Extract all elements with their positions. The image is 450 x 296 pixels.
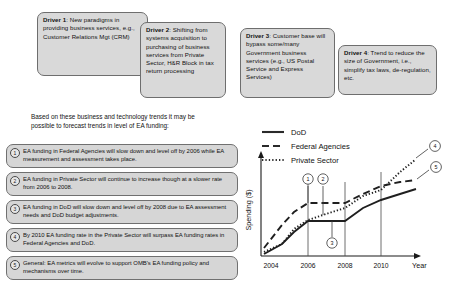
legend-label-private-sector: Private Sector — [291, 156, 339, 165]
finding-text-1: EA funding in Federal Agencies will slow… — [23, 147, 233, 163]
y-axis-title: Spending ($) — [244, 189, 253, 230]
chart-callout-4: 4 — [416, 141, 440, 158]
finding-text-3: EA funding in DoD will slow down and lev… — [23, 203, 233, 219]
chart-callout-3: 3 — [327, 221, 337, 248]
driver-box-4: Driver 4: Trend to reduce the size of Go… — [338, 45, 437, 95]
x-tick-2010: 2010 — [373, 262, 388, 269]
finding-row-1: 1 EA funding in Federal Agencies will sl… — [6, 144, 238, 168]
driver-3-text: : Customer base will bypass some/many Go… — [246, 32, 325, 80]
diagram-canvas: Driver 1: New paradigms in providing bus… — [0, 0, 450, 296]
finding-text-2: EA funding in Private Sector will contin… — [23, 175, 233, 191]
driver-box-3: Driver 3: Customer base will bypass some… — [240, 28, 335, 98]
driver-2-text: : Shifting from systems acquisition to p… — [146, 26, 214, 74]
series-line-dod — [264, 189, 416, 254]
chart-callout-1: 1 — [303, 174, 313, 203]
x-axis-title: Year — [412, 261, 427, 270]
finding-row-4: 4 By 2010 EA funding rate in the Private… — [6, 228, 238, 252]
finding-row-5: 5 General: EA metrics will evolve to sup… — [6, 256, 238, 280]
driver-box-2: Driver 2: Shifting from systems acquisit… — [140, 22, 226, 98]
chart-callout-label-1: 1 — [307, 176, 310, 182]
chart-callout-5: 5 — [417, 162, 441, 179]
legend-label-federal-agencies: Federal Agencies — [291, 142, 350, 151]
chart-legend: DoD Federal Agencies Private Sector — [262, 128, 350, 165]
finding-number-5: 5 — [10, 260, 20, 270]
x-axis-arrow — [414, 253, 421, 259]
x-axis-ticks: 2004 2006 2008 2010 — [263, 262, 388, 269]
chart-callout-label-5: 5 — [435, 164, 438, 170]
x-tick-2008: 2008 — [337, 262, 352, 269]
chart-guidelines — [308, 172, 381, 256]
driver-3-label: Driver 3 — [246, 32, 269, 39]
finding-text-4: By 2010 EA funding rate in the Private S… — [23, 231, 233, 247]
driver-1-label: Driver 1 — [43, 16, 66, 23]
finding-text-5: General: EA metrics will evolve to suppo… — [23, 259, 233, 275]
finding-number-3: 3 — [10, 204, 20, 214]
chart-svg: DoD Federal Agencies Private Sector — [240, 124, 450, 296]
finding-number-2: 2 — [10, 176, 20, 186]
chart-callout-label-4: 4 — [434, 143, 437, 149]
intro-paragraph: Based on these business and technology t… — [31, 112, 216, 130]
driver-2-label: Driver 2 — [146, 26, 169, 33]
spending-trend-chart: DoD Federal Agencies Private Sector — [240, 124, 450, 296]
driver-box-1: Driver 1: New paradigms in providing bus… — [37, 12, 148, 76]
legend-label-dod: DoD — [291, 128, 307, 137]
finding-number-1: 1 — [10, 148, 20, 158]
driver-4-label: Driver 4 — [344, 49, 367, 56]
finding-row-2: 2 EA funding in Private Sector will cont… — [6, 172, 238, 196]
chart-callout-label-3: 3 — [331, 240, 334, 246]
chart-callout-2: 2 — [318, 174, 328, 215]
finding-row-3: 3 EA funding in DoD will slow down and l… — [6, 200, 238, 224]
finding-number-4: 4 — [10, 232, 20, 242]
x-tick-2004: 2004 — [263, 262, 278, 269]
chart-callout-label-2: 2 — [322, 176, 325, 182]
y-axis-arrow — [258, 151, 264, 158]
x-tick-2006: 2006 — [300, 262, 315, 269]
